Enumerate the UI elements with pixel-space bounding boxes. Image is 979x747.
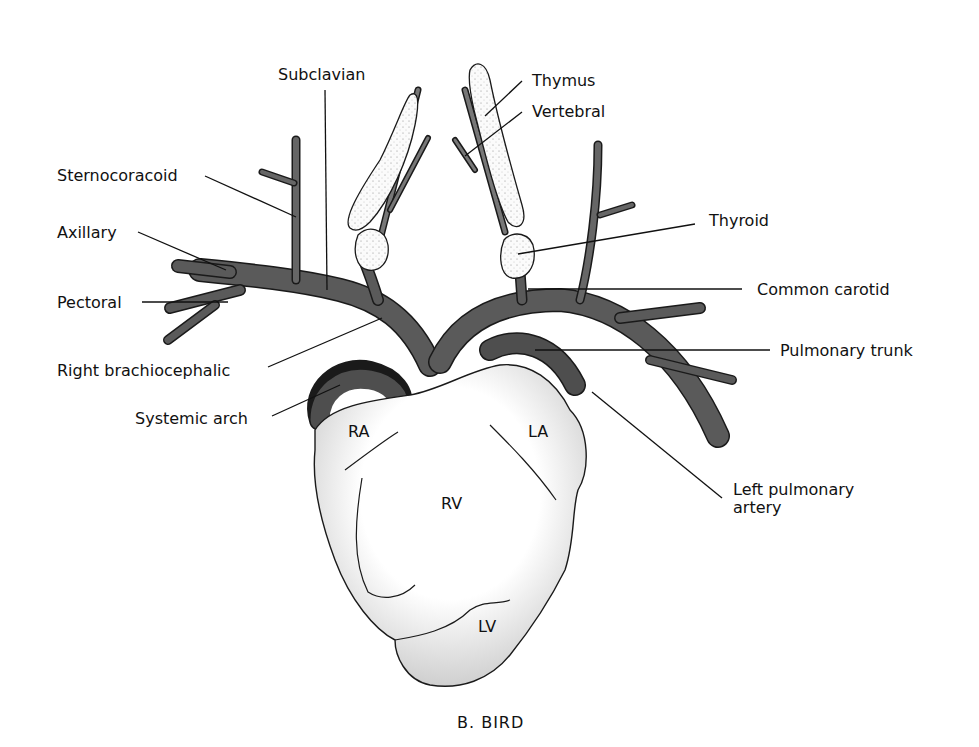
label-subclavian: Subclavian: [278, 66, 365, 84]
right-thyroid: [355, 229, 388, 270]
label-right-brachiocephalic: Right brachiocephalic: [57, 362, 230, 380]
chamber-lv: LV: [478, 618, 496, 636]
label-pectoral: Pectoral: [57, 294, 122, 312]
right-arterial-tree: [168, 90, 430, 365]
label-left-pulmonary-artery: Left pulmonary artery: [733, 481, 854, 517]
label-left-pulmonary-artery-line1: Left pulmonary: [733, 481, 854, 499]
label-pulmonary-trunk: Pulmonary trunk: [780, 342, 913, 360]
label-axillary: Axillary: [57, 224, 117, 242]
chamber-ra: RA: [348, 423, 369, 441]
label-thymus: Thymus: [532, 72, 595, 90]
label-systemic-arch: Systemic arch: [135, 410, 248, 428]
label-thyroid: Thyroid: [709, 212, 769, 230]
label-vertebral: Vertebral: [532, 103, 605, 121]
chamber-la: LA: [528, 423, 548, 441]
left-thyroid: [501, 234, 535, 278]
heart: [314, 365, 586, 687]
label-sternocoracoid: Sternocoracoid: [57, 167, 178, 185]
label-common-carotid: Common carotid: [757, 281, 890, 299]
chamber-rv: RV: [441, 495, 462, 513]
right-thymus: [348, 94, 418, 230]
label-left-pulmonary-artery-line2: artery: [733, 499, 854, 517]
figure-caption: B. BIRD: [457, 713, 524, 732]
